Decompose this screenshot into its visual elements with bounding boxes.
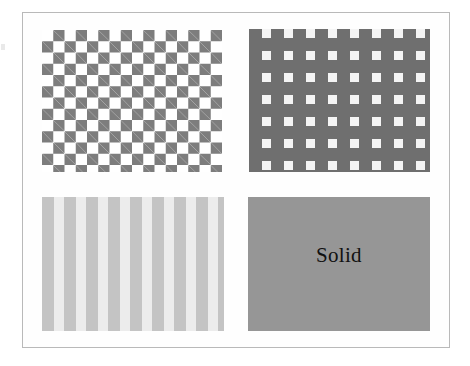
- figure-root: Solid: [0, 0, 470, 366]
- panel-grid-mesh-high-contrast: [249, 29, 430, 172]
- panel-checkerboard-low-contrast: [42, 197, 224, 331]
- panel-checkerboard-high-contrast: [42, 30, 222, 172]
- panel-solid-gray: Solid: [248, 197, 430, 331]
- panel-solid-label: Solid: [248, 243, 430, 268]
- figure-frame: Solid: [22, 12, 450, 348]
- edge-registration-mark: [1, 44, 5, 50]
